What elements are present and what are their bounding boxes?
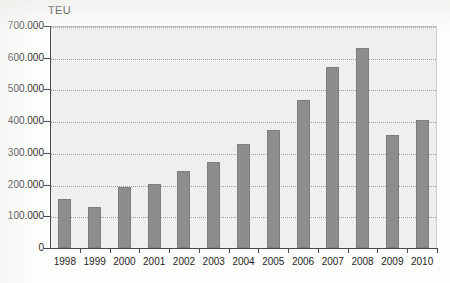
x-tick-mark — [80, 248, 81, 253]
bar — [118, 187, 131, 248]
y-tick-mark — [44, 89, 50, 90]
x-tick-label: 2007 — [318, 256, 348, 267]
y-tick-mark — [44, 26, 50, 27]
bar — [267, 130, 280, 248]
x-tick-label: 2009 — [377, 256, 407, 267]
y-tick-mark — [44, 58, 50, 59]
x-tick-mark — [229, 248, 230, 253]
y-tick-mark — [44, 153, 50, 154]
y-tick-label: 700.000 — [0, 20, 44, 31]
x-tick-label: 2002 — [169, 256, 199, 267]
gridline — [50, 27, 436, 28]
bar — [297, 100, 310, 248]
y-tick-label: 300.000 — [0, 147, 44, 158]
bar — [356, 48, 369, 248]
x-tick-label: 2004 — [229, 256, 259, 267]
x-tick-label: 2005 — [258, 256, 288, 267]
y-tick-label: 600.000 — [0, 52, 44, 63]
x-tick-label: 1998 — [50, 256, 80, 267]
y-tick-mark — [44, 121, 50, 122]
bar — [416, 120, 429, 248]
x-tick-mark — [407, 248, 408, 253]
x-tick-label: 2003 — [199, 256, 229, 267]
y-tick-mark — [44, 216, 50, 217]
bar — [237, 144, 250, 248]
x-tick-label: 2006 — [288, 256, 318, 267]
y-tick-label: 400.000 — [0, 115, 44, 126]
x-tick-mark — [199, 248, 200, 253]
x-axis-line — [50, 248, 438, 249]
x-tick-mark — [139, 248, 140, 253]
x-tick-mark — [377, 248, 378, 253]
bar-chart: TEU 700.000600.000500.000400.000300.0002… — [0, 0, 450, 283]
y-axis-unit-label: TEU — [48, 4, 71, 16]
y-tick-label: 500.000 — [0, 83, 44, 94]
bar — [177, 171, 190, 248]
x-tick-mark — [318, 248, 319, 253]
x-tick-label: 2000 — [109, 256, 139, 267]
bar — [207, 162, 220, 248]
bar — [148, 184, 161, 248]
gridline — [50, 59, 436, 60]
x-tick-label: 2001 — [139, 256, 169, 267]
x-tick-mark — [348, 248, 349, 253]
x-tick-mark — [258, 248, 259, 253]
gridline — [50, 122, 436, 123]
bar — [326, 67, 339, 248]
y-tick-label: 100.000 — [0, 210, 44, 221]
x-tick-label: 2010 — [407, 256, 437, 267]
bar — [88, 207, 101, 248]
x-tick-mark — [288, 248, 289, 253]
x-tick-mark — [169, 248, 170, 253]
x-tick-label: 1999 — [80, 256, 110, 267]
x-tick-mark — [110, 248, 111, 253]
y-tick-label: 200.000 — [0, 179, 44, 190]
bar — [58, 199, 71, 248]
gridline — [50, 90, 436, 91]
y-tick-label: 0 — [0, 242, 44, 253]
y-axis-line — [50, 26, 51, 249]
y-tick-mark — [44, 248, 50, 249]
bar — [386, 135, 399, 248]
y-tick-mark — [44, 185, 50, 186]
x-tick-label: 2008 — [348, 256, 378, 267]
x-tick-mark — [437, 248, 438, 253]
